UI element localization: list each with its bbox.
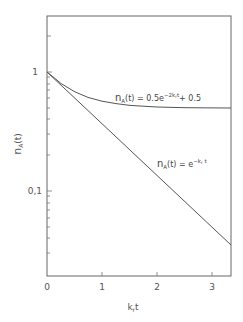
- y-tick-label-0.1: 0,1: [28, 186, 42, 196]
- y-tick-label-1: 1: [32, 67, 38, 77]
- y-ticks: [47, 36, 52, 253]
- plot-frame: [47, 16, 231, 276]
- x-ticks: [102, 272, 212, 276]
- annotation-exponential-equation: nA(t) = e−kr t: [157, 158, 207, 170]
- x-tick-label-0: 0: [44, 282, 50, 292]
- chart: 1 0,1 0 1 2 3 krt nA(t) nA(t) = 0.5e−2kr…: [0, 0, 243, 322]
- x-tick-label-2: 2: [154, 282, 160, 292]
- x-tick-label-1: 1: [99, 282, 105, 292]
- y-axis-label: nA(t): [11, 133, 24, 155]
- x-tick-label-3: 3: [209, 282, 215, 292]
- x-axis-label: krt: [127, 302, 139, 313]
- annotation-biexponential-equation: nA(t) = 0.5e−2krt+ 0.5: [115, 92, 201, 104]
